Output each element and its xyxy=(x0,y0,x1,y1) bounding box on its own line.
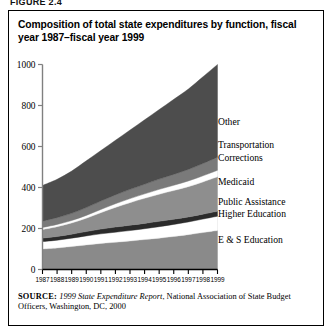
x-axis-tick-label: 1999 xyxy=(210,276,225,283)
legend-item-corrections: Corrections xyxy=(218,153,263,163)
x-axis-tick-label: 1994 xyxy=(137,276,152,283)
legend-item-public-assistance: Public Assistance xyxy=(218,197,285,207)
x-axis-tick-label: 1991 xyxy=(94,276,109,283)
y-axis-tick-label: 800 xyxy=(21,101,35,111)
legend-item-higher-education: Higher Education xyxy=(218,209,286,219)
y-axis-tick-label: 0 xyxy=(31,265,36,275)
y-axis-tick-label: 1000 xyxy=(17,60,36,70)
figure-number: FIGURE 2.4 xyxy=(10,0,62,7)
legend-item-es-education: E & S Education xyxy=(218,235,283,245)
source-note: SOURCE: 1999 State Expenditure Report, N… xyxy=(18,292,316,313)
x-axis-tick-label: 1995 xyxy=(152,276,167,283)
source-title: 1999 State Expenditure Report xyxy=(59,292,162,301)
y-axis-tick-label: 600 xyxy=(21,142,35,152)
legend-item-medicaid: Medicaid xyxy=(218,177,254,187)
x-axis-tick-label: 1996 xyxy=(167,276,182,283)
x-axis-tick-label: 1989 xyxy=(65,276,80,283)
x-axis-tick-label: 1997 xyxy=(181,276,196,283)
chart-legend: Other Transportation Corrections Medicai… xyxy=(218,60,330,260)
x-axis-tick-label: 1990 xyxy=(79,276,94,283)
x-axis-tick-label: 1987 xyxy=(35,276,50,283)
source-label: SOURCE: xyxy=(18,292,57,301)
x-axis-tick-label: 1993 xyxy=(123,276,138,283)
y-axis-tick-label: 400 xyxy=(21,183,35,193)
x-axis-tick-label: 1998 xyxy=(196,276,211,283)
figure-container: FIGURE 2.4 Composition of total state ex… xyxy=(0,0,334,334)
legend-item-other: Other xyxy=(218,117,240,127)
x-axis-tick-label: 1992 xyxy=(108,276,123,283)
legend-item-transportation: Transportation xyxy=(218,140,274,150)
y-axis-tick-label: 200 xyxy=(21,224,35,234)
x-axis-tick-label: 1988 xyxy=(50,276,65,283)
